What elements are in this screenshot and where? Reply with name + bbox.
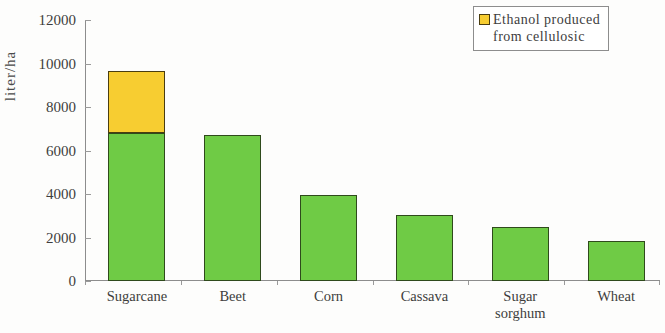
x-tick-mark xyxy=(564,281,565,285)
y-tick-mark xyxy=(85,20,91,21)
legend: Ethanol produced from cellulosic xyxy=(473,6,609,51)
y-tick-label: 8000 xyxy=(46,99,76,116)
y-tick-label: 6000 xyxy=(46,142,76,159)
x-tick-mark xyxy=(659,281,660,285)
bar-segment[interactable] xyxy=(108,71,165,133)
x-axis-label: Sugarcane xyxy=(89,288,185,305)
y-tick-label: 0 xyxy=(69,273,77,290)
legend-swatch-icon xyxy=(479,14,490,25)
y-tick-label: 10000 xyxy=(39,55,77,72)
x-tick-mark xyxy=(181,281,182,285)
y-tick-label: 4000 xyxy=(46,186,76,203)
bar-wheat[interactable] xyxy=(588,241,645,281)
bar-sugar-sorghum[interactable] xyxy=(492,227,549,281)
x-axis-label: Corn xyxy=(281,288,377,305)
x-axis-label: Wheat xyxy=(568,288,664,305)
x-axis-label: Beet xyxy=(185,288,281,305)
x-axis-label: Sugar sorghum xyxy=(472,288,568,322)
y-tick-mark xyxy=(85,194,91,195)
bar-beet[interactable] xyxy=(204,135,261,281)
x-tick-mark xyxy=(468,281,469,285)
bar-segment[interactable] xyxy=(108,133,165,281)
bar-segment[interactable] xyxy=(204,135,261,281)
y-tick-mark xyxy=(85,151,91,152)
bar-cassava[interactable] xyxy=(396,215,453,281)
legend-item-cellulosic: Ethanol produced from cellulosic xyxy=(479,11,600,45)
legend-label: Ethanol produced from cellulosic xyxy=(493,11,600,45)
y-tick-mark xyxy=(85,64,91,65)
x-tick-mark xyxy=(277,281,278,285)
y-tick-label: 12000 xyxy=(39,12,77,29)
y-axis-title: liter/ha xyxy=(2,16,19,136)
bar-sugarcane[interactable] xyxy=(108,71,165,281)
bar-segment[interactable] xyxy=(492,227,549,281)
bar-segment[interactable] xyxy=(300,195,357,281)
x-tick-mark xyxy=(373,281,374,285)
bar-corn[interactable] xyxy=(300,195,357,281)
y-tick-mark xyxy=(85,238,91,239)
bar-segment[interactable] xyxy=(396,215,453,281)
y-tick-mark xyxy=(85,107,91,108)
bar-chart: liter/ha 120001000080006000400020000 Sug… xyxy=(0,0,665,333)
y-tick-label: 2000 xyxy=(46,229,76,246)
x-axis-label: Cassava xyxy=(377,288,473,305)
x-tick-mark xyxy=(85,281,86,285)
plot-area: 120001000080006000400020000 xyxy=(85,20,660,281)
bar-segment[interactable] xyxy=(588,241,645,281)
